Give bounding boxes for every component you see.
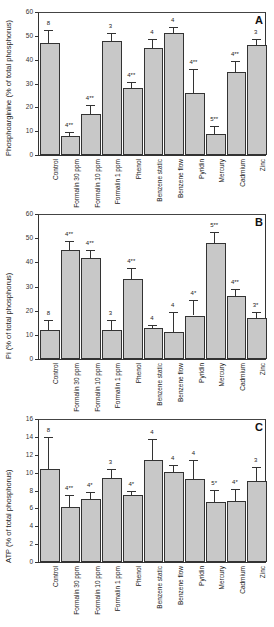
y-tick-label: 16 <box>19 415 33 422</box>
y-tick-label: 0 <box>19 558 33 565</box>
error-bar-cap <box>44 437 53 438</box>
y-tick-mark <box>35 508 38 509</box>
y-tick-mark <box>35 473 38 474</box>
y-tick-label: 4 <box>19 522 33 529</box>
y-tick-label: 8 <box>19 487 33 494</box>
x-tick-label: Benzene static <box>156 566 163 609</box>
error-bar <box>111 469 112 478</box>
bar-cadmium <box>227 501 247 562</box>
x-tick-label: Formalin 30 ppm <box>73 566 80 615</box>
y-axis-label: ATP (% of total phosphorus) <box>4 469 13 563</box>
y-tick-label: 2 <box>19 540 33 547</box>
y-tick-label: 14 <box>19 433 33 440</box>
sample-size-label: 4 <box>161 455 185 461</box>
panel-letter: C <box>255 421 263 433</box>
y-tick-mark <box>35 562 38 563</box>
sample-size-label: 4* <box>119 481 143 487</box>
x-tick-label: Mercury <box>218 566 225 589</box>
x-tick-label: Formalin 10 ppm <box>94 566 101 615</box>
error-bar-cap <box>169 465 178 466</box>
x-tick-label: Control <box>52 566 59 587</box>
error-bar-cap <box>189 460 198 461</box>
y-tick-mark <box>35 419 38 420</box>
error-bar-cap <box>252 467 261 468</box>
bar-benzene-static <box>144 460 164 562</box>
sample-size-label: 3 <box>99 459 123 465</box>
bar-zinc <box>247 481 267 562</box>
error-bar-cap <box>86 492 95 493</box>
error-bar <box>256 467 257 480</box>
x-tick-label: Cadmium <box>239 566 246 594</box>
error-bar-cap <box>148 439 157 440</box>
bar-pyridin <box>185 479 205 562</box>
sample-size-label: 3 <box>244 457 268 463</box>
error-bar <box>214 490 215 503</box>
error-bar-cap <box>210 490 219 491</box>
bar-control <box>40 469 60 562</box>
y-tick-mark <box>35 437 38 438</box>
x-tick-label: Benzene flow <box>177 566 184 605</box>
error-bar-cap <box>65 495 74 496</box>
error-bar <box>193 460 194 479</box>
sample-size-label: 4* <box>78 482 102 488</box>
y-tick-mark <box>35 455 38 456</box>
error-bar <box>235 489 236 502</box>
bar-mercury <box>206 502 226 562</box>
sample-size-label: 4 <box>181 450 205 456</box>
y-tick-mark <box>35 526 38 527</box>
error-bar-cap <box>127 491 136 492</box>
y-tick-mark <box>35 491 38 492</box>
bar-benzene-flow <box>164 472 184 562</box>
y-tick-label: 10 <box>19 469 33 476</box>
bar-formalin-30-ppm <box>61 507 81 562</box>
y-tick-label: 6 <box>19 504 33 511</box>
x-tick-label: Phenol <box>135 566 142 586</box>
sample-size-label: 8 <box>36 427 60 433</box>
x-tick-label: Formalin 1 ppm <box>115 566 122 611</box>
x-tick-label: Pyridin <box>197 566 204 586</box>
error-bar <box>69 495 70 508</box>
sample-size-label: 4* <box>223 479 247 485</box>
error-bar <box>90 492 91 499</box>
bar-phenol <box>123 495 143 562</box>
error-bar <box>152 439 153 460</box>
y-tick-label: 12 <box>19 451 33 458</box>
x-tick-label: Zinc <box>260 566 267 578</box>
bar-formalin-10-ppm <box>81 499 101 562</box>
error-bar-cap <box>107 469 116 470</box>
error-bar <box>48 437 49 469</box>
y-tick-mark <box>35 544 38 545</box>
sample-size-label: 4 <box>140 429 164 435</box>
error-bar-cap <box>231 489 240 490</box>
bar-formalin-1-ppm <box>102 478 122 562</box>
chart-panel-c: C0246810121416ATP (% of total phosphorus… <box>0 0 274 627</box>
